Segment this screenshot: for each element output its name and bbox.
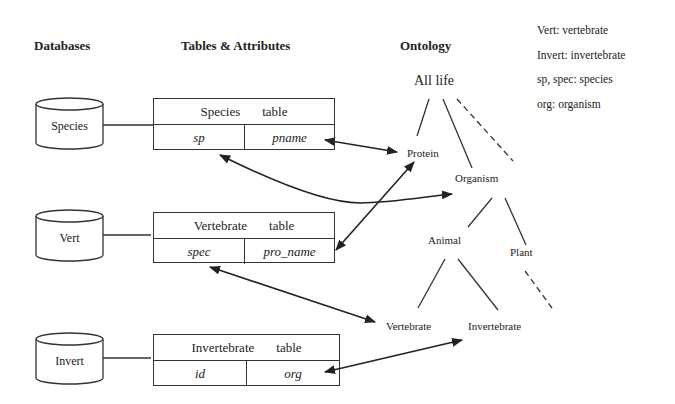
attribute-pro-name: pro_name [245,239,334,264]
attribute-pname: pname [245,125,334,150]
table-name: Vertebrate [194,218,247,234]
database-label-invert: Invert [36,354,103,369]
species-table: Species table sp pname [153,98,335,150]
attribute-sp: sp [154,125,245,150]
ontology-node-invertebrate: Invertebrate [468,320,521,332]
table-suffix: table [276,340,301,356]
table-title: Vertebrate table [154,213,334,239]
attribute-spec: spec [154,239,245,264]
table-name: Species [201,104,241,120]
attribute-id: id [154,361,247,386]
table-name: Invertebrate [191,340,254,356]
arrow-sp-organism [220,155,452,203]
vertebrate-table: Vertebrate table spec pro_name [153,212,335,263]
arrow-proname-protein [336,162,414,250]
ontology-node-all-life: All life [414,73,454,89]
table-title: Species table [154,99,334,125]
ontology-node-animal: Animal [428,234,461,246]
ontology-node-protein: Protein [407,147,439,159]
invertebrate-table: Invertebrate table id org [153,334,340,386]
table-title: Invertebrate table [154,335,339,361]
table-suffix: table [262,104,287,120]
arrow-org-invertebrate [325,340,462,372]
arrow-spec-vertebrate [210,267,375,322]
database-label-vert: Vert [36,231,103,246]
attribute-org: org [247,361,339,386]
ontology-node-organism: Organism [455,172,498,184]
table-suffix: table [269,218,294,234]
ontology-node-plant: Plant [510,246,533,258]
ontology-node-vertebrate: Vertebrate [386,320,431,332]
database-label-species: Species [36,119,103,134]
arrow-pname-protein [325,140,397,152]
